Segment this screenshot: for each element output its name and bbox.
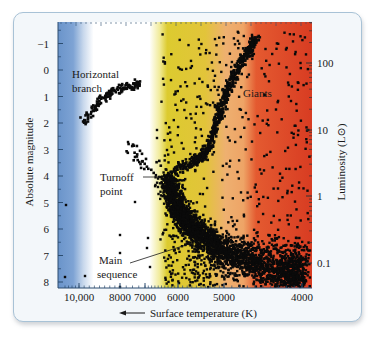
annotation-main-sequence: Main — [99, 254, 123, 266]
x-tick-label: 10,000 — [64, 291, 95, 303]
annotation-horizontal-branch: Horizontal — [72, 68, 119, 80]
x-tick-label: 7000 — [134, 291, 157, 303]
y-right-tick-label: 1 — [317, 190, 323, 202]
annotation-giants: Giants — [243, 87, 272, 99]
x-tick-label: 8000 — [109, 291, 132, 303]
y-tick-label: 4 — [44, 170, 50, 182]
y-tick-label: 0 — [44, 64, 50, 76]
plot-area — [58, 22, 312, 288]
y-axis-right-labels: 1001010.1 — [317, 57, 334, 269]
y-tick-label: 1 — [44, 91, 50, 103]
svg-text:Surface temperature (K): Surface temperature (K) — [150, 307, 257, 320]
annotation-turnoff: Turnoff — [100, 171, 134, 183]
arrow-head-icon — [119, 311, 126, 316]
x-tick-label: 5000 — [213, 291, 236, 303]
x-tick-label: 6000 — [167, 291, 190, 303]
annotation-main-sequence-line2: sequence — [97, 268, 137, 280]
y-axis-left-labels: −1012345678 — [37, 38, 49, 289]
annotation-horizontal-branch-line2: branch — [72, 82, 102, 94]
x-axis-title: Surface temperature (K) — [119, 307, 257, 320]
y-right-tick-label: 10 — [317, 124, 329, 136]
y-axis-right-title: Luminosity (L⊙) — [335, 123, 348, 200]
annotation-turnoff-line2: point — [100, 185, 123, 197]
y-tick-label: 8 — [44, 276, 50, 288]
y-right-tick-label: 100 — [317, 57, 334, 69]
y-axis-left-title: Absolute magnitude — [23, 117, 35, 206]
y-tick-label: 6 — [44, 223, 50, 235]
y-right-tick-label: 0.1 — [317, 257, 331, 269]
y-tick-label: 3 — [44, 144, 50, 156]
y-tick-label: 7 — [44, 250, 50, 262]
x-axis-labels: 10,00080007000600050004000 — [64, 291, 314, 303]
y-tick-label: −1 — [37, 38, 49, 50]
x-tick-label: 4000 — [291, 291, 314, 303]
y-tick-label: 5 — [44, 197, 50, 209]
y-tick-label: 2 — [44, 117, 50, 129]
hr-diagram: −1012345678 1001010.1 10,000800070006000… — [0, 0, 376, 339]
